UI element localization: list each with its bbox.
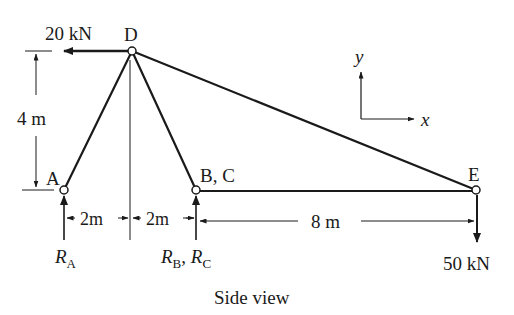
joint-label-BC: B, C bbox=[200, 165, 235, 186]
joint-E bbox=[472, 186, 480, 194]
reaction-label-A: RA bbox=[54, 246, 77, 271]
member-AD bbox=[64, 51, 132, 190]
joint-A bbox=[60, 186, 68, 194]
joint-label-E: E bbox=[468, 164, 480, 185]
x-axis-label: x bbox=[420, 109, 430, 130]
height-dimension-label: 4 m bbox=[17, 108, 46, 129]
joint-BC bbox=[192, 186, 200, 194]
reaction-subscript-A: A bbox=[67, 256, 77, 271]
dim-label-DB: 2m bbox=[146, 209, 169, 229]
dim-label-BE: 8 m bbox=[311, 211, 340, 232]
y-axis-label: y bbox=[353, 46, 364, 67]
dim-label-AD: 2m bbox=[80, 209, 103, 229]
load-label-E: 50 kN bbox=[443, 253, 490, 274]
joint-label-D: D bbox=[124, 24, 138, 45]
reaction-symbol-A: R bbox=[54, 246, 67, 267]
joint-D bbox=[128, 47, 136, 55]
horizontal-dimensions bbox=[67, 218, 474, 221]
load-label-D: 20 kN bbox=[45, 23, 92, 44]
coordinate-axes bbox=[361, 72, 414, 119]
truss-members bbox=[64, 51, 476, 191]
joint-label-A: A bbox=[46, 168, 60, 189]
reaction-label-BC: RB, RC bbox=[160, 246, 211, 271]
truss-diagram: 20 kN 50 kN D A B, C E 4 m 2m 2m 8 m RA bbox=[0, 0, 514, 315]
figure-caption: Side view bbox=[214, 287, 290, 308]
